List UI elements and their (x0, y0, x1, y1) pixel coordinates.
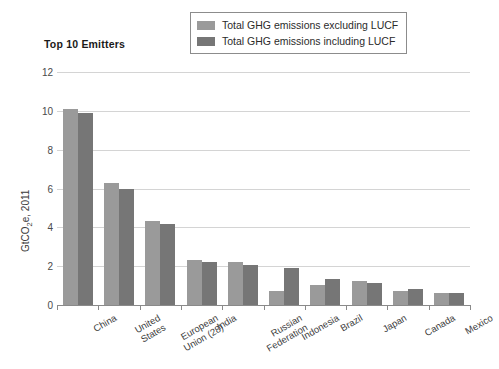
bar-including-lucf (449, 293, 464, 305)
bar-group (387, 72, 428, 305)
bar-including-lucf (119, 189, 134, 306)
x-axis-label: EuropeanUnion (28) (176, 312, 225, 353)
bar-group (140, 72, 181, 305)
bar-group (98, 72, 139, 305)
x-axis-label: Japan (380, 312, 408, 334)
bar-including-lucf (202, 262, 217, 305)
chart-page: Total GHG emissions excluding LUCF Total… (0, 0, 499, 369)
bar-including-lucf (160, 224, 175, 305)
legend-label-including-lucf: Total GHG emissions including LUCF (222, 35, 395, 47)
x-axis-label: Mexico (463, 312, 495, 337)
y-tick-label-2: 2 (23, 261, 53, 272)
bar-group (305, 72, 346, 305)
x-axis-label: India (215, 312, 238, 332)
y-tick-label-8: 8 (23, 144, 53, 155)
legend-swatch-excluding-lucf (197, 21, 215, 30)
y-tick-label-10: 10 (23, 105, 53, 116)
x-axis-label: UnitedStates (133, 312, 168, 345)
bar-group (57, 72, 98, 305)
bar-excluding-lucf (228, 262, 243, 305)
bar-excluding-lucf (104, 183, 119, 305)
chart-legend: Total GHG emissions excluding LUCF Total… (190, 12, 407, 54)
bar-excluding-lucf (434, 293, 449, 305)
bar-excluding-lucf (63, 109, 78, 305)
y-axis-tick-labels: 024681012 (18, 72, 53, 305)
y-tick-label-12: 12 (23, 67, 53, 78)
bar-including-lucf (243, 265, 258, 305)
legend-item-excluding-lucf: Total GHG emissions excluding LUCF (197, 17, 398, 33)
y-tick-label-6: 6 (23, 183, 53, 194)
bar-excluding-lucf (352, 281, 367, 305)
y-tick-label-0: 0 (23, 300, 53, 311)
x-axis-label: Brazil (338, 312, 364, 333)
x-axis-labels: ChinaUnitedStatesEuropeanUnion (28)India… (57, 308, 470, 368)
bar-including-lucf (284, 268, 299, 305)
bar-groups (57, 72, 470, 305)
bar-group (346, 72, 387, 305)
y-tick-label-4: 4 (23, 222, 53, 233)
bar-group (429, 72, 470, 305)
bar-including-lucf (78, 113, 93, 305)
legend-label-excluding-lucf: Total GHG emissions excluding LUCF (222, 19, 398, 31)
x-axis-tick (470, 305, 471, 310)
x-axis-label: China (91, 312, 118, 334)
bar-excluding-lucf (269, 291, 284, 305)
bar-excluding-lucf (187, 260, 202, 305)
bar-including-lucf (367, 283, 382, 305)
bar-excluding-lucf (393, 291, 408, 305)
bar-excluding-lucf (145, 221, 160, 305)
bar-group (263, 72, 304, 305)
bar-including-lucf (408, 289, 423, 306)
bar-group (181, 72, 222, 305)
chart-title: Top 10 Emitters (44, 38, 125, 50)
x-axis-label: Canada (422, 312, 456, 338)
bar-including-lucf (325, 279, 340, 305)
bar-group (222, 72, 263, 305)
legend-swatch-including-lucf (197, 37, 215, 46)
plot-area (57, 72, 470, 305)
bar-excluding-lucf (310, 285, 325, 305)
legend-item-including-lucf: Total GHG emissions including LUCF (197, 33, 398, 49)
